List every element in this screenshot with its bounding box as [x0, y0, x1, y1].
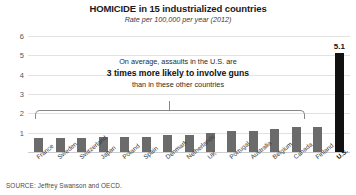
bar-switzerland [77, 36, 86, 152]
bar-sweden [56, 36, 65, 152]
chart-subtitle: Rate per 100,000 per year (2012) [0, 15, 356, 24]
chart-annotation: On average, assaults in the U.S. are 3 t… [28, 57, 328, 89]
bar-portugal [227, 36, 236, 152]
bracket-stem [169, 101, 170, 110]
chart-title: HOMICIDE in 15 industrialized countries [0, 3, 356, 14]
bar-canada [292, 36, 301, 152]
bar-netherlands [185, 36, 194, 152]
bar-denmark [163, 36, 172, 152]
x-axis-labels: FranceSwedenSwitzerlandJapanPolandSpainD… [28, 153, 350, 179]
source-note: SOURCE: Jeffrey Swanson and OECD. [6, 182, 122, 189]
bar-spain [142, 36, 151, 152]
bars-layer: 5.1 [28, 36, 350, 152]
bar-value-label: 5.1 [334, 42, 345, 51]
y-axis-tick-label-5: 5 [20, 51, 24, 60]
y-axis-tick-label-2: 2 [20, 109, 24, 118]
bar-belgium [270, 36, 279, 152]
bar-poland [120, 36, 129, 152]
annotation-line-1: On average, assaults in the U.S. are [28, 57, 328, 66]
bar-australia [249, 36, 258, 152]
bar-u-s: 5.1 [335, 36, 344, 152]
y-axis-tick-label-3: 3 [20, 90, 24, 99]
y-axis-tick-label-4: 4 [20, 70, 24, 79]
y-axis-tick-label-1: 1 [20, 128, 24, 137]
homicide-bar-chart: HOMICIDE in 15 industrialized countries … [0, 0, 356, 195]
annotation-line-2: 3 times more likely to involve guns [28, 68, 328, 79]
bar-france [34, 36, 43, 152]
country-group-bracket [35, 110, 305, 119]
bar-finland [313, 36, 322, 152]
y-axis-tick-label-6: 6 [20, 32, 24, 41]
annotation-line-3: than in these other countries [28, 80, 328, 89]
bar-rect [335, 53, 344, 152]
